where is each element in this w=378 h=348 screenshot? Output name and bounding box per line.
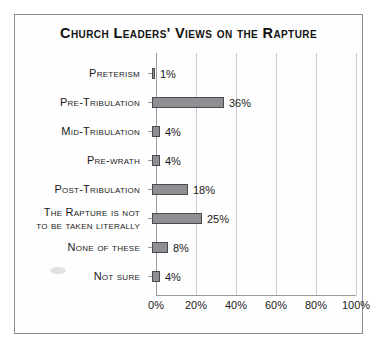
category-label-line1: Mid-Tribulation bbox=[61, 125, 140, 137]
chart-title: Church Leaders' Views on the Rapture bbox=[15, 25, 362, 41]
bar[interactable] bbox=[152, 242, 168, 253]
bar-row: None of these8% bbox=[15, 233, 356, 262]
gridline-100 bbox=[356, 53, 357, 295]
bar[interactable] bbox=[152, 271, 160, 282]
category-label-line1: Not sure bbox=[94, 270, 140, 282]
category-label-line1: Pre-wrath bbox=[87, 154, 140, 166]
bar-container: 8% bbox=[152, 233, 356, 262]
bar-container: 4% bbox=[152, 117, 356, 146]
x-axis-tick-labels: 0%20%40%60%80%100% bbox=[156, 299, 366, 317]
bar[interactable] bbox=[152, 97, 224, 108]
x-tick-label-20pct: 20% bbox=[185, 299, 207, 311]
category-label-line1: Preterism bbox=[89, 67, 140, 79]
category-label: None of these bbox=[15, 241, 148, 254]
bar-row: Mid-Tribulation4% bbox=[15, 117, 356, 146]
bar-value-label: 4% bbox=[165, 155, 181, 167]
category-label-line1: None of these bbox=[68, 241, 140, 253]
x-tick-label-60pct: 60% bbox=[265, 299, 287, 311]
bar-row: Preterism1% bbox=[15, 59, 356, 88]
bar-value-label: 4% bbox=[165, 271, 181, 283]
bar-row: Pre-wrath4% bbox=[15, 146, 356, 175]
x-tick-label-80pct: 80% bbox=[305, 299, 327, 311]
bar[interactable] bbox=[152, 213, 202, 224]
bar-value-label: 8% bbox=[173, 242, 189, 254]
x-tick-label-100pct: 100% bbox=[342, 299, 370, 311]
bar-container: 25% bbox=[152, 204, 356, 233]
category-label-line1: Pre-Tribulation bbox=[60, 96, 140, 108]
category-label: The Rapture is notto be taken literally bbox=[15, 206, 148, 231]
category-label-line1: Post-Tribulation bbox=[54, 183, 140, 195]
bar-value-label: 18% bbox=[193, 184, 215, 196]
chart-frame: Church Leaders' Views on the Rapture Pre… bbox=[14, 14, 363, 334]
bar-container: 36% bbox=[152, 88, 356, 117]
x-axis-line bbox=[156, 295, 356, 296]
category-label-line1: The Rapture is not bbox=[44, 206, 140, 218]
category-label: Pre-Tribulation bbox=[15, 96, 148, 109]
bar[interactable] bbox=[152, 155, 160, 166]
bar-value-label: 36% bbox=[229, 97, 251, 109]
plot-area: Preterism1%Pre-Tribulation36%Mid-Tribula… bbox=[156, 53, 356, 295]
bar-value-label: 4% bbox=[165, 126, 181, 138]
category-label-line2: to be taken literally bbox=[15, 219, 140, 232]
bar[interactable] bbox=[152, 184, 188, 195]
x-tick-label-0pct: 0% bbox=[148, 299, 164, 311]
bar-row: Pre-Tribulation36% bbox=[15, 88, 356, 117]
bar-value-label: 1% bbox=[160, 68, 176, 80]
bar-value-label: 25% bbox=[207, 213, 229, 225]
category-label: Post-Tribulation bbox=[15, 183, 148, 196]
bar-container: 4% bbox=[152, 146, 356, 175]
category-label: Pre-wrath bbox=[15, 154, 148, 167]
bar-row: Post-Tribulation18% bbox=[15, 175, 356, 204]
category-label: Not sure bbox=[15, 270, 148, 283]
bar-container: 1% bbox=[152, 59, 356, 88]
category-label: Preterism bbox=[15, 67, 148, 80]
bar[interactable] bbox=[152, 126, 160, 137]
bar-container: 18% bbox=[152, 175, 356, 204]
bar-row: Not sure4% bbox=[15, 262, 356, 291]
x-tick-label-40pct: 40% bbox=[225, 299, 247, 311]
category-label: Mid-Tribulation bbox=[15, 125, 148, 138]
bar[interactable] bbox=[152, 68, 155, 79]
bar-row: The Rapture is notto be taken literally2… bbox=[15, 204, 356, 233]
bar-container: 4% bbox=[152, 262, 356, 291]
